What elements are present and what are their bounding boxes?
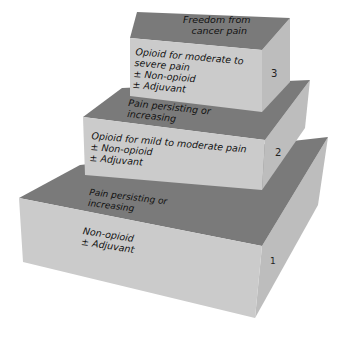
summit-line-1: Freedom from xyxy=(183,14,251,25)
step3-number: 3 xyxy=(271,68,277,79)
step1-number: 1 xyxy=(270,256,276,266)
summit-line-2: cancer pain xyxy=(183,25,251,36)
step3-treatment: Opioid for moderate to severe pain ± Non… xyxy=(132,46,244,99)
summit-label: Freedom from cancer pain xyxy=(183,14,251,36)
step2-number: 2 xyxy=(275,147,281,158)
